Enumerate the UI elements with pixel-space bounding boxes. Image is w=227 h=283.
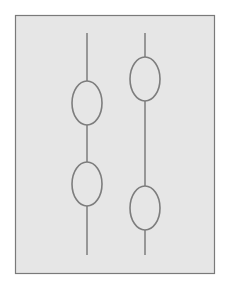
bead-right-2 xyxy=(130,186,160,230)
bead-left-2 xyxy=(72,162,102,206)
bead-left-1 xyxy=(72,81,102,125)
diagram-panel xyxy=(16,16,215,274)
bead-right-1 xyxy=(130,57,160,101)
diagram-canvas xyxy=(0,0,227,283)
